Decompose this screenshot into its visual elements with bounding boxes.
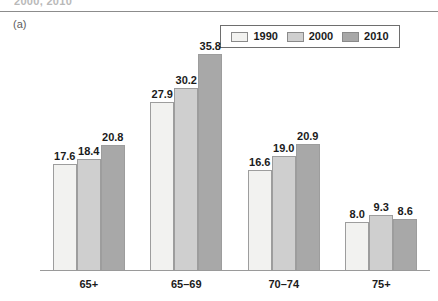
bar-value-label: 9.3 xyxy=(374,202,389,213)
bar-rect xyxy=(296,144,320,271)
bar-value-label: 16.6 xyxy=(249,157,270,168)
bar-value-label: 27.9 xyxy=(152,89,173,100)
bar-value-label: 8.6 xyxy=(398,206,413,217)
bar-group-bars: 8.09.38.6 xyxy=(345,14,417,271)
panel-letter: (a) xyxy=(13,18,26,30)
bar-group: 16.619.020.9 xyxy=(248,14,320,271)
x-axis-label-2: 65–69 xyxy=(138,278,236,290)
bar-value-label: 18.4 xyxy=(78,146,99,157)
bar-2000-65–69[interactable]: 30.2 xyxy=(174,14,198,271)
bar-group: 27.930.235.8 xyxy=(150,14,222,271)
header-rule xyxy=(0,11,438,12)
bar-rect xyxy=(150,102,174,271)
bar-value-label: 20.8 xyxy=(102,132,123,143)
bar-value-label: 35.8 xyxy=(200,41,221,52)
bar-group-bars: 27.930.235.8 xyxy=(150,14,222,271)
bar-2010-75+[interactable]: 8.6 xyxy=(393,14,417,271)
bar-group: 17.618.420.8 xyxy=(53,14,125,271)
bar-rect xyxy=(77,159,101,271)
clipped-running-head: 2000, 2010 xyxy=(14,0,72,7)
bar-rect xyxy=(53,164,77,271)
bar-1990-65+[interactable]: 17.6 xyxy=(53,14,77,271)
bar-rect xyxy=(369,215,393,271)
bar-2000-70–74[interactable]: 19.0 xyxy=(272,14,296,271)
bar-group-bars: 16.619.020.9 xyxy=(248,14,320,271)
bar-rect xyxy=(174,88,198,271)
plot-area: 17.618.420.827.930.235.816.619.020.98.09… xyxy=(40,14,430,271)
bar-rect xyxy=(393,219,417,271)
bar-2010-65–69[interactable]: 35.8 xyxy=(198,14,222,271)
bar-2010-70–74[interactable]: 20.9 xyxy=(296,14,320,271)
bar-value-label: 17.6 xyxy=(54,151,75,162)
bar-2000-75+[interactable]: 9.3 xyxy=(369,14,393,271)
bar-rect xyxy=(198,54,222,271)
bar-1990-70–74[interactable]: 16.6 xyxy=(248,14,272,271)
x-axis-baseline xyxy=(40,270,430,271)
bar-value-label: 20.9 xyxy=(297,131,318,142)
bar-rect xyxy=(345,222,369,271)
bar-1990-65–69[interactable]: 27.9 xyxy=(150,14,174,271)
bar-rect xyxy=(272,156,296,271)
bar-group-bars: 17.618.420.8 xyxy=(53,14,125,271)
x-axis-label-1: 65+ xyxy=(40,278,138,290)
bar-rect xyxy=(101,145,125,271)
x-axis-label-3: 70–74 xyxy=(235,278,333,290)
bar-value-label: 19.0 xyxy=(273,143,294,154)
bar-1990-75+[interactable]: 8.0 xyxy=(345,14,369,271)
bar-rect xyxy=(248,170,272,271)
bar-group: 8.09.38.6 xyxy=(345,14,417,271)
figure-panel-a: 2000, 2010 (a) 199020002010 17.618.420.8… xyxy=(0,0,438,301)
bar-2000-65+[interactable]: 18.4 xyxy=(77,14,101,271)
x-axis-label-4: 75+ xyxy=(333,278,431,290)
bar-2010-65+[interactable]: 20.8 xyxy=(101,14,125,271)
bar-value-label: 30.2 xyxy=(176,75,197,86)
bar-value-label: 8.0 xyxy=(350,209,365,220)
